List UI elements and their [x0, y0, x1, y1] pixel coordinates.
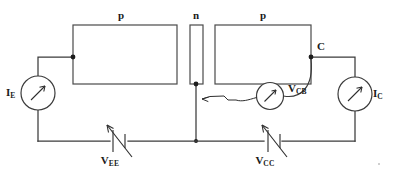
emitter-current-meter-label: IE — [6, 87, 15, 98]
collector-terminal-label: C — [317, 41, 325, 52]
circuit-schematic-canvas — [0, 0, 393, 175]
base-contact-dot — [194, 82, 199, 87]
scan-speck — [378, 163, 380, 165]
vee-symbol: V — [101, 154, 109, 166]
collector-supply-label: VCC — [255, 155, 274, 166]
emitter-region-label: p — [118, 10, 124, 21]
base-pointer-arrowhead — [202, 97, 209, 102]
emitter-current-subscript: E — [10, 91, 15, 100]
collector-contact-dot — [309, 55, 314, 60]
vcc-subscript: CC — [263, 159, 274, 168]
emitter-supply-label: VEE — [101, 155, 119, 166]
collector-current-meter-label: IC — [373, 88, 383, 99]
vcb-symbol: V — [288, 82, 296, 94]
base-region-label: n — [193, 10, 199, 21]
emitter-lead-wire — [38, 57, 73, 76]
vcb-subscript: CB — [296, 87, 307, 96]
collector-lead-wire — [311, 57, 355, 77]
emitter-contact-dot — [71, 55, 76, 60]
circuit-diagram: p n p C IE IC VCB VEE VCC — [0, 0, 393, 175]
collector-region-label: p — [260, 10, 266, 21]
vcc-symbol: V — [255, 154, 263, 166]
collector-current-subscript: C — [377, 92, 383, 101]
vee-subscript: EE — [109, 159, 119, 168]
base-pointer-leader-line — [202, 96, 257, 101]
emitter-region-block — [73, 25, 177, 84]
base-region-block — [190, 25, 203, 84]
collector-base-voltage-meter-label: VCB — [288, 83, 307, 94]
collector-region-block — [215, 25, 311, 84]
